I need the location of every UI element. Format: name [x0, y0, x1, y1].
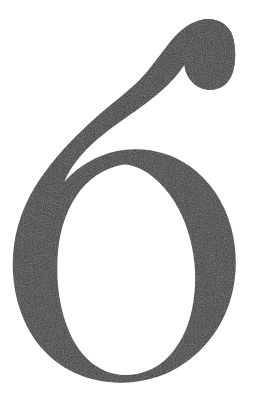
image-canvas: 6	[0, 0, 253, 408]
numeral-six-glyph	[0, 0, 253, 408]
